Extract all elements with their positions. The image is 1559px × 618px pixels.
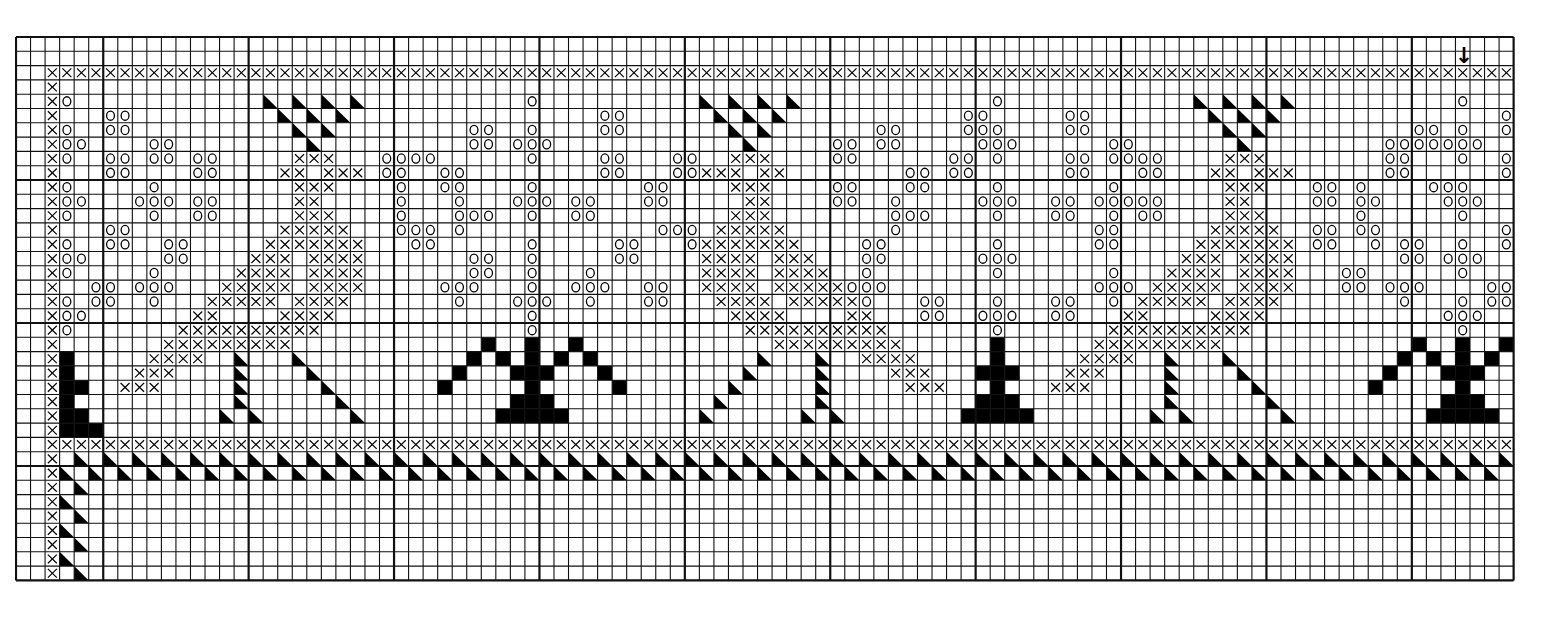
cross-stitch-chart xyxy=(15,36,1515,582)
cross-stitch-icon xyxy=(339,440,348,449)
triangle-stitch-icon xyxy=(1397,466,1412,480)
cross-stitch-icon xyxy=(295,154,304,163)
cross-stitch-icon xyxy=(746,440,755,449)
triangle-stitch-icon xyxy=(321,380,336,394)
cross-stitch-icon xyxy=(1255,226,1264,235)
triangle-stitch-icon xyxy=(947,452,962,466)
cross-stitch-icon xyxy=(324,154,333,163)
cross-stitch-icon xyxy=(1429,68,1438,77)
circle-stitch-icon xyxy=(1081,168,1089,177)
circle-stitch-icon xyxy=(601,125,609,134)
circle-stitch-icon xyxy=(528,154,536,163)
triangle-stitch-icon xyxy=(1165,466,1180,480)
cross-stitch-icon xyxy=(1022,68,1031,77)
cross-stitch-icon xyxy=(1197,297,1206,306)
circle-stitch-icon xyxy=(1502,125,1510,134)
triangle-stitch-icon xyxy=(336,395,351,409)
triangle-stitch-icon xyxy=(350,466,365,480)
cross-stitch-icon xyxy=(1255,269,1264,278)
circle-stitch-icon xyxy=(208,168,216,177)
circle-stitch-icon xyxy=(994,311,1002,320)
circle-stitch-icon xyxy=(1110,197,1118,206)
cross-stitch-icon xyxy=(1095,340,1104,349)
cross-stitch-icon xyxy=(775,340,784,349)
circle-stitch-icon xyxy=(165,140,173,149)
triangle-stitch-icon xyxy=(728,380,743,394)
cross-stitch-icon xyxy=(237,440,246,449)
cross-stitch-icon xyxy=(1298,68,1307,77)
cross-stitch-icon xyxy=(775,312,784,321)
solid-stitch xyxy=(1455,395,1470,409)
circle-stitch-icon xyxy=(1342,283,1350,292)
solid-stitch xyxy=(1005,409,1020,423)
cross-stitch-icon xyxy=(1124,312,1133,321)
cross-stitch-icon xyxy=(1240,154,1249,163)
cross-stitch-icon xyxy=(659,68,668,77)
cross-stitch-icon xyxy=(1124,326,1133,335)
circle-stitch-icon xyxy=(107,297,115,306)
cross-stitch-icon xyxy=(295,440,304,449)
circle-stitch-icon xyxy=(107,283,115,292)
cross-stitch-icon xyxy=(411,68,420,77)
cross-stitch-icon xyxy=(1167,440,1176,449)
cross-stitch-icon xyxy=(775,269,784,278)
circle-stitch-icon xyxy=(456,297,464,306)
triangle-stitch-icon xyxy=(60,466,75,480)
circle-stitch-icon xyxy=(1444,254,1452,263)
triangle-stitch-icon xyxy=(234,466,249,480)
circle-stitch-icon xyxy=(456,183,464,192)
circle-stitch-icon xyxy=(1110,283,1118,292)
circle-stitch-icon xyxy=(1110,183,1118,192)
cross-stitch-icon xyxy=(135,440,144,449)
cross-stitch-icon xyxy=(862,340,871,349)
solid-stitch xyxy=(1485,409,1500,423)
solid-stitch xyxy=(1005,395,1020,409)
circle-stitch-icon xyxy=(1328,183,1336,192)
cross-stitch-icon xyxy=(891,440,900,449)
solid-stitch xyxy=(1441,395,1456,409)
cross-stitch-icon xyxy=(397,68,406,77)
solid-stitch xyxy=(60,423,75,437)
cross-stitch-icon xyxy=(281,440,290,449)
cross-stitch-icon xyxy=(251,326,260,335)
cross-stitch-icon xyxy=(1080,369,1089,378)
circle-stitch-icon xyxy=(412,240,420,249)
cross-stitch-icon xyxy=(920,369,929,378)
circle-stitch-icon xyxy=(1459,326,1467,335)
circle-stitch-icon xyxy=(994,254,1002,263)
circle-stitch-icon xyxy=(107,154,115,163)
cross-stitch-icon xyxy=(353,68,362,77)
solid-stitch xyxy=(525,337,540,351)
circle-stitch-icon xyxy=(1008,140,1016,149)
circle-stitch-icon xyxy=(645,297,653,306)
cross-stitch-icon xyxy=(1153,283,1162,292)
cross-stitch-icon xyxy=(760,440,769,449)
circle-stitch-icon xyxy=(1401,240,1409,249)
circle-stitch-icon xyxy=(63,211,71,220)
circle-stitch-icon xyxy=(63,326,71,335)
cross-stitch-icon xyxy=(1182,340,1191,349)
circle-stitch-icon xyxy=(470,140,478,149)
cross-stitch-icon xyxy=(499,68,508,77)
cross-stitch-icon xyxy=(353,269,362,278)
triangle-stitch-icon xyxy=(816,352,831,366)
circle-stitch-icon xyxy=(1066,197,1074,206)
cross-stitch-icon xyxy=(48,269,57,278)
triangle-stitch-icon xyxy=(321,94,336,108)
triangle-stitch-icon xyxy=(74,509,89,523)
circle-stitch-icon xyxy=(1357,211,1365,220)
circle-stitch-icon xyxy=(863,297,871,306)
solid-stitch xyxy=(1455,366,1470,380)
solid-stitch xyxy=(554,409,569,423)
cross-stitch-icon xyxy=(1037,440,1046,449)
cross-stitch-icon xyxy=(353,283,362,292)
circle-stitch-icon xyxy=(1110,154,1118,163)
triangle-stitch-icon xyxy=(190,452,205,466)
cross-stitch-icon xyxy=(629,440,638,449)
cross-stitch-icon xyxy=(339,169,348,178)
circle-stitch-icon xyxy=(921,311,929,320)
solid-stitch xyxy=(525,352,540,366)
circle-stitch-icon xyxy=(63,97,71,106)
circle-stitch-icon xyxy=(615,154,623,163)
circle-stitch-icon xyxy=(165,254,173,263)
